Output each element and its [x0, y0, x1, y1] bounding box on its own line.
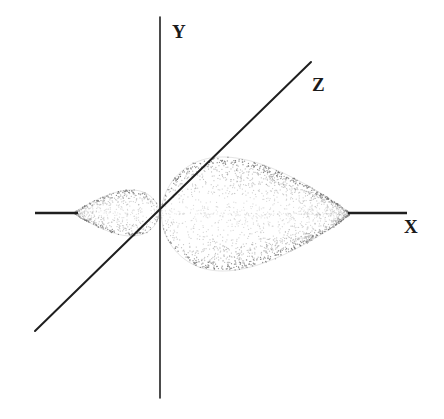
orbital-diagram-canvas: Y Z X	[0, 0, 444, 419]
x-axis-label: X	[404, 216, 418, 237]
z-axis-label: Z	[312, 74, 325, 95]
y-axis-label: Y	[172, 21, 186, 42]
figure-background	[0, 0, 444, 419]
orbital-figure: Y Z X	[0, 0, 444, 419]
